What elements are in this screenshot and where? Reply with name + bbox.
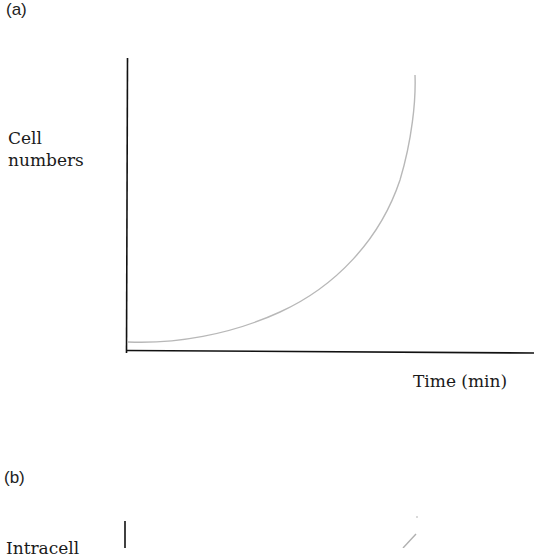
growth-curve — [128, 75, 415, 342]
panel-b-label: (b) — [4, 468, 25, 488]
panel-b-y-axis-label: Intracell — [6, 537, 79, 558]
x-axis — [126, 351, 534, 354]
panel-b-curve-segment — [403, 534, 416, 548]
panel-b-dot — [416, 516, 418, 518]
y-axis — [127, 58, 128, 353]
